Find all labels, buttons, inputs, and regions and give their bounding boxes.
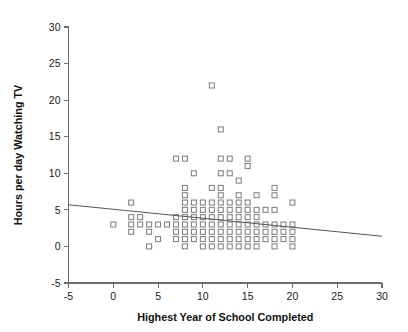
- data-point: [218, 244, 223, 249]
- data-point: [191, 171, 196, 176]
- data-point: [200, 244, 205, 249]
- y-tick-label: 5: [55, 204, 61, 216]
- data-point: [191, 207, 196, 212]
- data-point: [254, 193, 259, 198]
- data-point: [245, 207, 250, 212]
- data-point: [182, 185, 187, 190]
- x-tick-label: -5: [64, 290, 73, 302]
- data-point: [290, 244, 295, 249]
- data-point: [227, 200, 232, 205]
- y-tick-label: -5: [51, 277, 60, 289]
- data-point: [272, 207, 277, 212]
- x-tick-label: 10: [197, 290, 209, 302]
- x-tick-label: 5: [155, 290, 161, 302]
- data-point: [111, 222, 116, 227]
- data-point: [245, 244, 250, 249]
- data-point: [290, 237, 295, 242]
- data-point: [227, 171, 232, 176]
- data-point: [218, 200, 223, 205]
- y-axis-title: Hours per day Watching TV: [12, 84, 24, 225]
- x-tick-label: 25: [331, 290, 343, 302]
- data-point: [173, 237, 178, 242]
- plot-canvas: -5051015202530 -5051015202530 Highest Ye…: [0, 0, 408, 332]
- x-tick-marks: [69, 283, 383, 288]
- data-point: [227, 215, 232, 220]
- data-point: [209, 207, 214, 212]
- y-axis-group: -5051015202530: [49, 21, 69, 289]
- data-point: [209, 185, 214, 190]
- y-tick-label: 15: [49, 130, 61, 142]
- data-point: [254, 244, 259, 249]
- data-point: [200, 229, 205, 234]
- data-point: [218, 222, 223, 227]
- data-point: [272, 237, 277, 242]
- data-point: [182, 207, 187, 212]
- data-point: [245, 156, 250, 161]
- data-point: [227, 229, 232, 234]
- data-point: [129, 200, 134, 205]
- data-point: [218, 171, 223, 176]
- x-tick-label: 0: [110, 290, 116, 302]
- data-point: [138, 215, 143, 220]
- data-point: [218, 127, 223, 132]
- data-point: [129, 229, 134, 234]
- data-point: [227, 244, 232, 249]
- data-point: [209, 237, 214, 242]
- y-tick-label: 30: [49, 21, 61, 33]
- data-point: [227, 207, 232, 212]
- data-point: [254, 222, 259, 227]
- data-point: [191, 237, 196, 242]
- data-point: [182, 237, 187, 242]
- data-point: [272, 222, 277, 227]
- data-point: [156, 237, 161, 242]
- data-point: [236, 215, 241, 220]
- y-tick-marks: [64, 27, 69, 283]
- data-point: [200, 200, 205, 205]
- data-point: [165, 222, 170, 227]
- data-point: [245, 237, 250, 242]
- y-tick-label: 25: [49, 57, 61, 69]
- data-point: [173, 229, 178, 234]
- data-point: [182, 229, 187, 234]
- data-point: [191, 200, 196, 205]
- data-point: [182, 215, 187, 220]
- data-point: [218, 215, 223, 220]
- data-point: [245, 200, 250, 205]
- data-point: [218, 207, 223, 212]
- data-point: [236, 178, 241, 183]
- data-point: [281, 237, 286, 242]
- data-point: [290, 222, 295, 227]
- data-point: [236, 193, 241, 198]
- x-axis-title: Highest Year of School Completed: [137, 311, 313, 323]
- data-point: [254, 215, 259, 220]
- data-point: [254, 229, 259, 234]
- data-point: [182, 200, 187, 205]
- data-point: [290, 229, 295, 234]
- data-point: [263, 207, 268, 212]
- data-point: [254, 237, 259, 242]
- data-point: [191, 229, 196, 234]
- data-point: [182, 222, 187, 227]
- regression-trendline: [69, 205, 383, 236]
- data-point: [254, 207, 259, 212]
- data-point: [245, 229, 250, 234]
- data-point-markers: [111, 83, 295, 249]
- data-point: [272, 185, 277, 190]
- y-tick-label: 20: [49, 94, 61, 106]
- data-point: [236, 229, 241, 234]
- data-point: [147, 244, 152, 249]
- data-point: [129, 222, 134, 227]
- y-tick-label: 10: [49, 167, 61, 179]
- x-tick-label: 20: [287, 290, 299, 302]
- data-point: [263, 237, 268, 242]
- data-point: [236, 244, 241, 249]
- data-point: [209, 244, 214, 249]
- data-point: [272, 193, 277, 198]
- data-point: [272, 244, 277, 249]
- data-point: [227, 222, 232, 227]
- data-point: [290, 200, 295, 205]
- data-point: [236, 200, 241, 205]
- data-point: [182, 244, 187, 249]
- data-point: [209, 200, 214, 205]
- data-point: [173, 156, 178, 161]
